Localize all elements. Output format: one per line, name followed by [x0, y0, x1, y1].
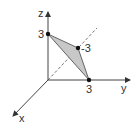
x-intercept-label: -3	[81, 42, 91, 54]
x-axis	[13, 80, 48, 116]
shaded-triangle	[48, 34, 89, 80]
point-x-intercept	[76, 46, 80, 50]
coordinate-diagram: z y x 3 3 -3	[0, 0, 137, 131]
point-z-intercept	[46, 32, 50, 36]
y-intercept-label: 3	[86, 83, 92, 95]
z-axis-label: z	[38, 7, 44, 19]
point-y-intercept	[87, 78, 91, 82]
z-intercept-label: 3	[38, 28, 44, 40]
x-axis-label: x	[19, 112, 25, 124]
y-axis-label: y	[121, 82, 127, 94]
